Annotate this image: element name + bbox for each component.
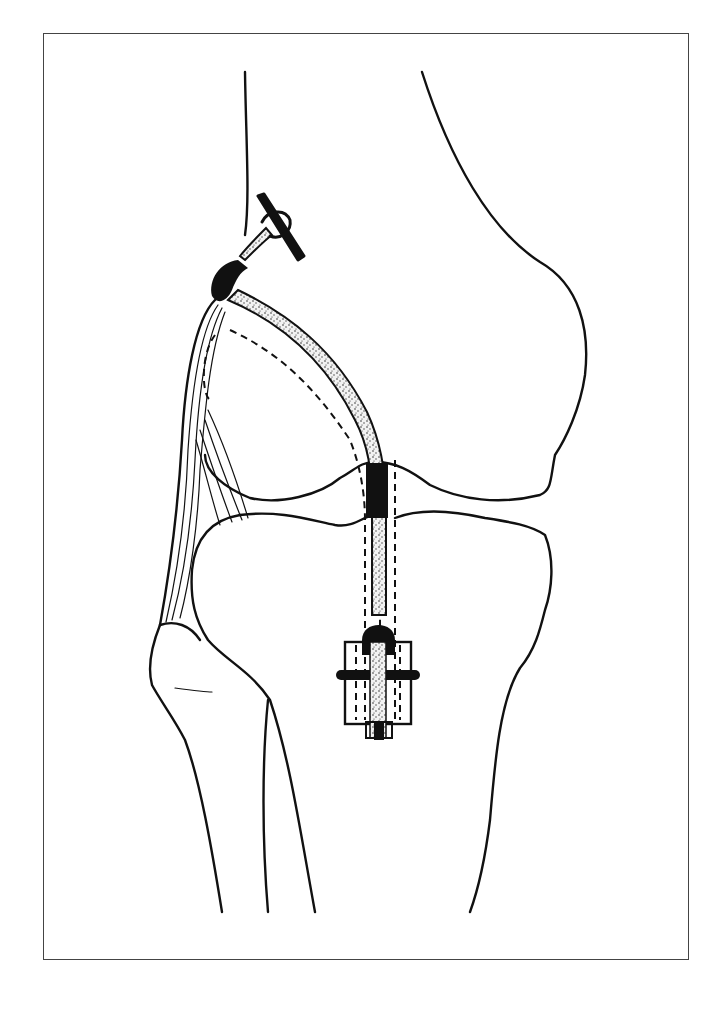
femur [205, 72, 586, 500]
lateral-ligament [160, 300, 248, 625]
graft [228, 228, 388, 615]
knee-diagram [0, 0, 724, 1013]
fibula [150, 623, 268, 912]
button-washer-icon [336, 625, 420, 740]
